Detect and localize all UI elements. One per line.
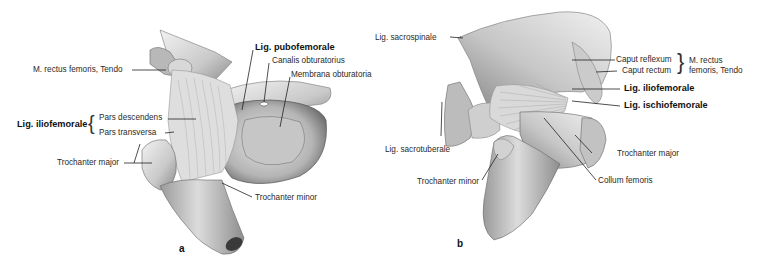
label-collum-femoris: Collum femoris bbox=[598, 176, 653, 186]
label-rectus-femoris-tendo-b2: femoris, Tendo bbox=[689, 66, 743, 76]
label-pars-descendens: Pars descendens bbox=[99, 113, 162, 123]
label-trochanter-major-b: Trochanter major bbox=[617, 149, 679, 159]
label-lig-iliofemorale-b: Lig. iliofemorale bbox=[624, 83, 694, 93]
label-lig-sacrotuberale: Lig. sacrotuberale bbox=[385, 145, 450, 155]
label-rectus-femoris-tendo: M. rectus femoris, Tendo bbox=[33, 65, 123, 75]
label-membrana-obturatoria: Membrana obturatoria bbox=[291, 70, 372, 80]
label-lig-sacrospinale: Lig. sacrospinale bbox=[375, 33, 436, 43]
label-rectus-femoris-tendo-b1: M. rectus bbox=[689, 56, 723, 66]
panel-letter-b: b bbox=[457, 238, 463, 249]
panel-letter-a: a bbox=[179, 243, 185, 254]
label-lig-pubofemorale: Lig. pubofemorale bbox=[255, 42, 335, 52]
label-caput-rectum: Caput rectum bbox=[622, 66, 671, 76]
label-trochanter-minor-b: Trochanter minor bbox=[417, 177, 479, 187]
label-lig-ischiofemorale: Lig. ischiofemorale bbox=[624, 100, 708, 110]
label-canalis-obturatorius: Canalis obturatorius bbox=[272, 56, 345, 66]
panel-b-illustration bbox=[444, 12, 611, 240]
label-trochanter-major-a: Trochanter major bbox=[57, 158, 119, 168]
label-trochanter-minor-a: Trochanter minor bbox=[255, 193, 317, 203]
label-caput-reflexum: Caput reflexum bbox=[616, 55, 672, 65]
label-lig-iliofemorale-a: Lig. iliofemorale bbox=[17, 119, 87, 129]
label-pars-transversa: Pars transversa bbox=[99, 128, 156, 138]
brace-rectus-femoris: } bbox=[677, 52, 684, 72]
brace-iliofemorale: { bbox=[88, 113, 95, 133]
